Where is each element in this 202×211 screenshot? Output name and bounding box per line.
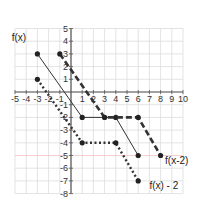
x-tick-label: 3 [102, 94, 107, 104]
data-point [80, 115, 85, 120]
function-transformation-chart: -5-4-3-2-11234567891054321-1-2-3-4-5-6-7… [0, 0, 202, 211]
x-tick-label: 8 [158, 94, 163, 104]
x-tick-label: 4 [113, 94, 118, 104]
y-tick-label: 4 [63, 36, 68, 46]
data-point [35, 77, 40, 82]
data-point [136, 153, 141, 158]
y-tick-label: -5 [60, 151, 68, 161]
axes [15, 29, 183, 194]
x-tick-label: -4 [22, 94, 30, 104]
y-tick-label: -1 [60, 100, 68, 110]
y-tick-label: -8 [60, 189, 68, 199]
data-point [136, 115, 141, 120]
y-tick-label: -6 [60, 163, 68, 173]
grid [15, 29, 183, 194]
data-point [158, 153, 163, 158]
y-tick-label: 1 [63, 74, 68, 84]
x-tick-label: -5 [11, 94, 19, 104]
x-tick-label: 7 [147, 94, 152, 104]
x-tick-label: 6 [136, 94, 141, 104]
x-tick-label: 9 [169, 94, 174, 104]
y-tick-label: -7 [60, 176, 68, 186]
data-point [136, 178, 141, 183]
data-point [80, 140, 85, 145]
data-point [113, 140, 118, 145]
x-tick-label: -3 [33, 94, 41, 104]
y-tick-label: -3 [60, 125, 68, 135]
series-label: f(x) [12, 32, 26, 43]
data-point [35, 51, 40, 56]
series-label: f(x-2) [165, 155, 188, 166]
y-tick-label: -4 [60, 138, 68, 148]
x-tick-label: 10 [178, 94, 188, 104]
series-label: f(x) - 2 [149, 180, 178, 191]
x-tick-label: 5 [124, 94, 129, 104]
y-tick-label: 5 [63, 24, 68, 34]
data-point [57, 51, 62, 56]
x-tick-label: 1 [80, 94, 85, 104]
data-point [102, 115, 107, 120]
